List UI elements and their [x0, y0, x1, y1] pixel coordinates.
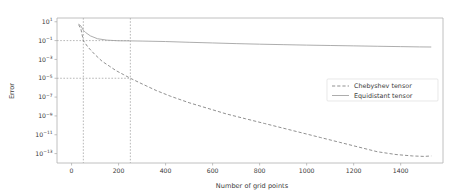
x-tick-label: 400 [160, 167, 172, 174]
y-tick-label: 10−3 [38, 55, 53, 63]
y-tick-label: 10−13 [35, 149, 52, 157]
chart-figure: 0200400600800100012001400 10110−110−310−… [0, 0, 462, 193]
y-axis-label: Error [8, 83, 16, 99]
x-tick-label: 600 [207, 167, 219, 174]
y-tick-label: 10−9 [38, 112, 53, 120]
x-tick-label: 1000 [299, 167, 315, 174]
y-tick-label: 10−1 [38, 36, 53, 44]
x-tick-label: 800 [254, 167, 266, 174]
chart-legend[interactable]: Chebyshev tensorEquidistant tensor [327, 79, 438, 101]
x-axis-label: Number of grid points [216, 182, 289, 190]
legend-label: Equidistant tensor [354, 92, 413, 100]
series-line-1 [79, 24, 432, 47]
x-tick-label: 200 [113, 167, 125, 174]
error-convergence-chart: 0200400600800100012001400 10110−110−310−… [0, 0, 462, 193]
x-tick-label: 1400 [393, 167, 409, 174]
y-tick-label: 10−5 [38, 74, 53, 82]
y-tick-label: 10−11 [35, 130, 52, 138]
legend-label: Chebyshev tensor [354, 82, 412, 90]
y-axis-ticks: 10110−110−310−510−710−910−1110−13 [35, 17, 57, 156]
y-tick-label: 101 [42, 17, 53, 25]
guide-lines-group [57, 18, 130, 163]
x-tick-label: 0 [70, 167, 74, 174]
y-tick-label: 10−7 [38, 93, 53, 101]
x-axis-ticks: 0200400600800100012001400 [70, 163, 409, 174]
x-tick-label: 1200 [346, 167, 362, 174]
